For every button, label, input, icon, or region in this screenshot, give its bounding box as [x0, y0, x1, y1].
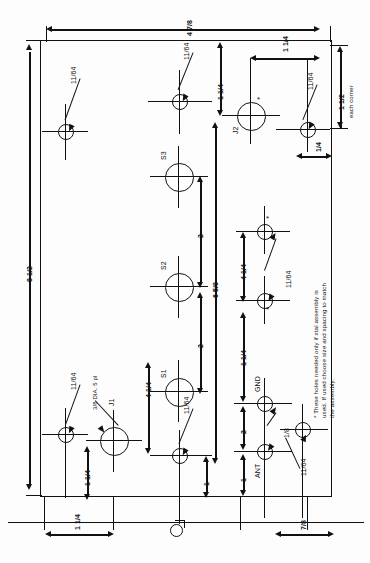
dim-chain-a-arrow-up [240, 312, 246, 318]
corner-ext-top [330, 45, 348, 46]
dim-chain-b-arrow-up [240, 406, 246, 412]
callout-c6-label: 11/64 [183, 397, 190, 415]
hole-j2 [237, 102, 266, 131]
dim-j2-from-top-label: 1 1/4 [217, 84, 224, 100]
hole-xtal-upper-crosshair-v [264, 206, 265, 254]
ext-line-left [46, 26, 47, 42]
dim-bottom-right-label: 7/8 [300, 520, 307, 530]
dim-chain-b-label: 2 [240, 430, 247, 434]
dim-bottom-right-arrow-r [328, 531, 334, 537]
dim-switch-spacing-upper-label: 2 [197, 234, 204, 238]
dim-s2-s1-arrow-dn [197, 388, 203, 394]
bottom-ext-d [307, 496, 308, 530]
ext-line-bottom [26, 495, 42, 496]
label-gnd: GND [254, 376, 261, 392]
dim-right-edge-line [300, 156, 328, 158]
asterisk-xtal-upper: * [266, 215, 269, 223]
callout-c4-label: 11/64 [285, 271, 292, 289]
label-j2: J2 [232, 126, 239, 134]
callout-c1-label: 11/64 [70, 67, 77, 85]
dim-bottom-right-arrow-l [275, 531, 281, 537]
dim-chain-c-arrow-up [240, 454, 246, 460]
dim-j2-top-arrow-dn [217, 110, 223, 116]
dim-bottom-left-label: 1 1/4 [74, 514, 81, 530]
dim-chain-b-line [243, 412, 245, 444]
dim-chain-b-arrow-dn [240, 444, 246, 450]
dim-corner-radius-label: 1 1/2 [338, 94, 345, 110]
long-ext-3 [264, 458, 265, 518]
dim-j2-top-line [220, 48, 222, 110]
dim-j2-top-arrow-up [217, 42, 223, 48]
dim-switch-spacing-lower-label: 2 [197, 344, 204, 348]
hole-xtal-lower-crosshair-v [264, 276, 265, 324]
ext-line-right [330, 26, 331, 42]
hole-gnd-crosshair-v [264, 378, 265, 428]
corner-note-label: each corner [348, 85, 354, 118]
asterisk-xtal-lower: * [266, 306, 269, 314]
dim-bottom-left-arrow-l [45, 531, 51, 537]
dim-s1-from-left-label: 4 1/4 [145, 382, 152, 398]
centerline-symbol [170, 524, 183, 537]
footnote-text: * These holes needed only if xtal assemb… [312, 283, 337, 418]
dim-right-edge-arrow-r [326, 153, 332, 159]
centerline-symbol-stem [184, 520, 185, 528]
dim-s1-left-arrow-dn [145, 448, 151, 454]
dim-bottom-gap-label: 1 [203, 482, 210, 486]
callout-c9-label: 3/8 DIA. 5 pl [92, 376, 98, 410]
dim-column-total-label: 6 5/8 [212, 282, 219, 298]
dim-xtal-spacing-label: 4 1/4 [240, 264, 247, 280]
hole-s3-upper-crosshair-v [179, 70, 180, 134]
dim-bottom-right-line [280, 534, 328, 536]
corner-ext-bottom [330, 128, 348, 129]
dim-overall-width-line [52, 29, 314, 31]
dim-overall-height-arrow-top [26, 44, 32, 50]
callout-c3-label: 11/64 [307, 73, 314, 91]
dim-bottom-left-line [50, 534, 108, 536]
hole-s1-crosshair-v [178, 360, 179, 422]
hole-s2 [165, 273, 194, 302]
dim-s3-s2-line [200, 182, 202, 282]
dim-s3-s2-arrow-dn [197, 282, 203, 288]
dim-overall-width-label: 4 7/8 [186, 20, 193, 36]
long-ext-2 [179, 462, 180, 524]
dim-right-edge-label: 1/4 [315, 142, 322, 152]
dim-overall-height-arrow-bottom [26, 484, 32, 490]
dim-s1-left-arrow-up [145, 362, 151, 368]
dim-chain-c-line [243, 460, 245, 492]
dim-xtal-spacing-arrow-up [240, 232, 246, 238]
dim-j1-arrow-dn [84, 494, 90, 500]
dim-overall-height-label: 8 1/2 [26, 266, 33, 282]
dim-bottom-gap-line [206, 462, 208, 492]
dim-corner-radius-line [340, 52, 342, 128]
dim-bottom-gap-arrow-dn [203, 492, 209, 498]
bottom-ext-b [113, 496, 114, 530]
dim-s2-s1-arrow-up [197, 292, 203, 298]
hole-s3 [165, 163, 194, 192]
callout-c7-label: 11/64 [70, 373, 77, 391]
dim-column-total-arrow-up [212, 122, 218, 128]
dim-j2-right-ext-a [250, 58, 251, 100]
label-j1: J1 [108, 398, 115, 406]
dim-overall-width-arrow-right [314, 26, 320, 32]
label-s2: S2 [160, 261, 167, 270]
dim-j2-right-line [256, 58, 314, 60]
dim-bottom-gap-arrow-up [203, 456, 209, 462]
hole-right-lower-crosshair-h [280, 429, 328, 430]
dim-j1-arrow-up [84, 446, 90, 452]
bottom-ext-c [240, 496, 241, 530]
dim-chain-a-label: 1 1/4 [240, 350, 247, 366]
dim-j2-right-arrow-r [314, 55, 320, 61]
label-s3: S3 [160, 151, 167, 160]
dim-xtal-spacing-arrow-dn [240, 296, 246, 302]
drawing-canvas: 4 7/8 8 1/2 1 1/2 each corner * These ho… [0, 0, 370, 563]
label-s1: S1 [160, 369, 167, 378]
dim-column-total-arrow-dn [212, 458, 218, 464]
dim-j1-label: 1 1/4 [84, 470, 91, 486]
hole-s3-upper-crosshair-h [148, 101, 212, 102]
dim-chain-c-label: 1 [240, 478, 247, 482]
long-ext-4 [302, 436, 303, 518]
dim-corner-arrow-top [337, 46, 343, 52]
dim-s2-s1-line [200, 298, 202, 388]
dim-right-edge-arrow-l [296, 153, 302, 159]
label-ant: ANT [254, 464, 261, 478]
